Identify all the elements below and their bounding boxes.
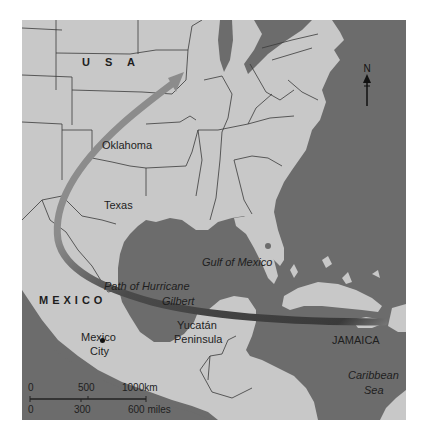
bahamas [290,256,380,284]
north-america-landmass [22,20,344,420]
hispaniola [388,304,406,332]
scale-km-500: 500 [78,383,95,393]
label-texas: Texas [104,200,133,211]
map-frame: U S A Oklahoma Texas MEXICO Gulf of Mexi… [22,20,406,420]
label-yucatan-line2: Peninsula [174,334,222,345]
label-yucatan-line1: Yucatán [177,320,217,331]
label-jamaica: JAMAICA [332,335,380,346]
scale-mi-600: 600 miles [128,405,171,415]
label-usa: U S A [82,57,141,68]
south-america [380,390,406,420]
north-arrow: N [362,63,372,108]
label-hurricane-path-line1: Path of Hurricane [104,281,190,292]
north-label: N [362,63,372,74]
label-hurricane-path-line2: Gilbert [162,296,194,307]
scale-bar: 0 500 1000km 0 300 600 miles [28,383,178,417]
label-mexico: MEXICO [39,295,106,306]
label-mexico-city-line1: Mexico [81,332,116,343]
scale-mi-0: 0 [28,405,34,415]
scale-bar-line [28,394,158,404]
label-caribbean-line2: Sea [364,385,384,396]
scale-mi-300: 300 [74,405,91,415]
cuba [282,282,382,312]
label-mexico-city-line2: City [90,346,109,357]
scale-km-1000: 1000km [122,383,158,393]
north-arrow-icon [362,74,372,106]
label-gulf-of-mexico: Gulf of Mexico [202,257,272,268]
label-caribbean-line1: Caribbean [348,370,399,381]
mexico-city-marker [100,338,105,343]
label-oklahoma: Oklahoma [102,140,152,151]
map-graphic [22,20,406,420]
scale-km-0: 0 [28,383,34,393]
